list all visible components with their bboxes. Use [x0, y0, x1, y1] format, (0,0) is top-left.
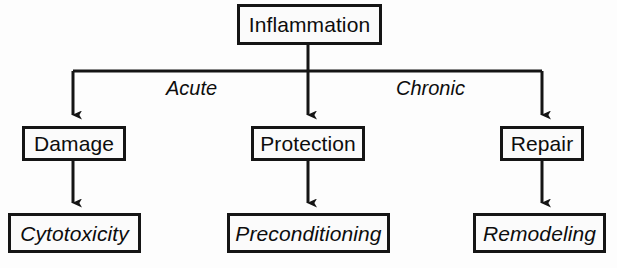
edge-label-chronic: Chronic	[396, 78, 465, 98]
node-damage: Damage	[22, 126, 126, 161]
inflammation-pathway-diagram: Inflammation Acute Chronic Damage Protec…	[0, 0, 617, 268]
node-repair-label: Repair	[511, 133, 573, 154]
node-cytotoxicity: Cytotoxicity	[8, 213, 141, 253]
node-inflammation: Inflammation	[237, 4, 382, 45]
node-remodeling-label: Remodeling	[483, 223, 596, 244]
node-preconditioning-label: Preconditioning	[235, 223, 381, 244]
node-inflammation-label: Inflammation	[249, 14, 370, 35]
node-cytotoxicity-label: Cytotoxicity	[20, 223, 129, 244]
edge-label-chronic-text: Chronic	[396, 77, 465, 99]
node-preconditioning: Preconditioning	[227, 213, 390, 253]
node-protection-label: Protection	[260, 133, 356, 154]
node-repair: Repair	[500, 126, 584, 161]
edge-label-acute-text: Acute	[166, 77, 217, 99]
node-damage-label: Damage	[34, 133, 114, 154]
node-remodeling: Remodeling	[473, 213, 606, 253]
edge-label-acute: Acute	[166, 78, 217, 98]
node-protection: Protection	[251, 126, 365, 161]
